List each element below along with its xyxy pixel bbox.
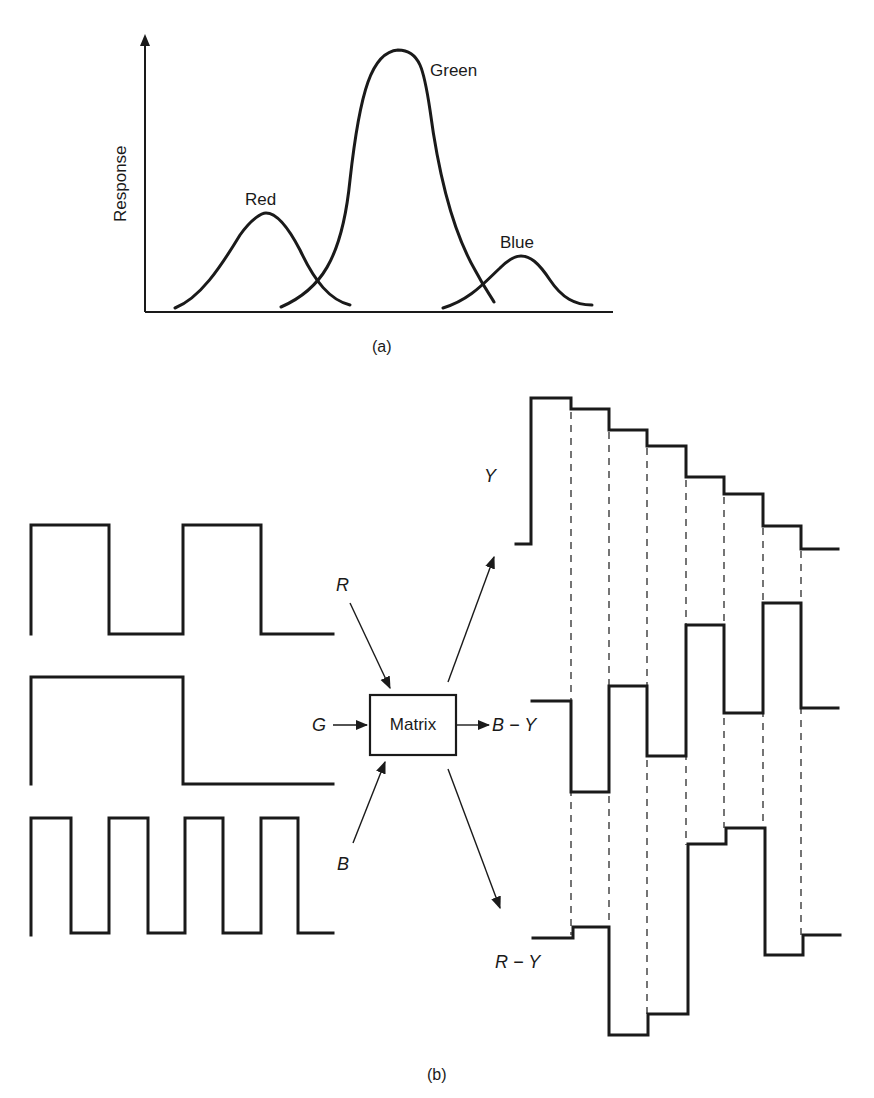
b-arrow-icon — [353, 762, 385, 843]
r-minus-y-output-waveform — [533, 828, 840, 1035]
caption-a: (a) — [372, 338, 392, 355]
g-input-waveform — [31, 677, 333, 784]
b-input-label: B — [337, 854, 349, 874]
green-curve — [281, 50, 494, 307]
y-output-waveform — [516, 398, 838, 549]
blue-label: Blue — [500, 233, 534, 252]
red-curve — [175, 213, 350, 308]
input-waveforms — [31, 525, 333, 935]
r-input-waveform — [31, 525, 333, 634]
r-minus-y-label: R − Y — [495, 952, 542, 972]
g-input-label: G — [312, 715, 326, 735]
matrix-block: Matrix R G B Y B − Y R − Y — [312, 466, 542, 972]
r-arrow-icon — [350, 603, 390, 688]
y-axis-arrow-icon — [140, 34, 150, 46]
r-minus-y-arrow-icon — [448, 769, 500, 908]
output-waveforms: (b) — [427, 398, 840, 1083]
b-minus-y-output-waveform — [532, 603, 838, 792]
y-output-label: Y — [484, 466, 498, 486]
y-axis-label: Response — [111, 145, 130, 222]
response-chart: Response Red Green Blue (a) — [111, 34, 613, 355]
matrix-label: Matrix — [390, 715, 437, 734]
b-minus-y-label: B − Y — [492, 715, 538, 735]
caption-b: (b) — [427, 1066, 447, 1083]
b-input-waveform — [31, 818, 333, 935]
y-output-arrow-icon — [448, 557, 494, 682]
figure-canvas: Response Red Green Blue (a) Matrix R G B… — [0, 0, 874, 1098]
blue-curve — [443, 256, 592, 308]
r-input-label: R — [336, 575, 349, 595]
green-label: Green — [430, 61, 477, 80]
red-label: Red — [245, 190, 276, 209]
